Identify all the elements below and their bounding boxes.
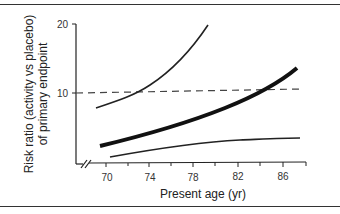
series-lower-bound: [110, 138, 300, 157]
x-tick-label-74: 74: [144, 172, 156, 183]
y-axis-title-line1: Risk ratio (activity vs placebo): [22, 15, 36, 174]
risk-ratio-chart: 20 10 70 74 78 82 86 Present age (yr) Ri…: [0, 0, 340, 214]
x-tick-label-86: 86: [277, 171, 289, 182]
x-tick-label-70: 70: [101, 172, 113, 183]
series-risk-ratio: [100, 68, 297, 146]
x-axis-title: Present age (yr): [160, 187, 246, 201]
series-upper-bound: [96, 25, 208, 108]
y-tick-label-20: 20: [57, 19, 69, 30]
bottom-rule: [0, 206, 340, 207]
y-axis-title-line2: of primary endpoint: [36, 42, 50, 145]
x-tick-label-82: 82: [232, 171, 244, 182]
x-tick-label-78: 78: [187, 172, 199, 183]
y-tick-label-10: 10: [57, 88, 69, 99]
x-axis: [89, 162, 306, 163]
